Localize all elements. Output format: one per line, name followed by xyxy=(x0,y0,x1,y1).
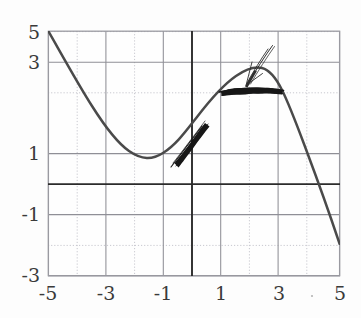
chart-figure: 5 3 1 -1 -3 -5 -3 -1 1 3 5 xyxy=(0,0,361,318)
x-tick-label: -5 xyxy=(39,282,58,304)
y-tick-label: 1 xyxy=(28,142,40,164)
y-axis-tick-labels: 5 3 1 -1 -3 xyxy=(21,21,40,286)
x-tick-label: -3 xyxy=(97,282,116,304)
scan-speck xyxy=(311,295,313,297)
y-tick-label: 5 xyxy=(28,21,40,43)
cropped-title-fragment xyxy=(0,0,361,6)
plot-svg: 5 3 1 -1 -3 -5 -3 -1 1 3 5 xyxy=(0,0,361,318)
x-tick-label: 5 xyxy=(334,282,346,304)
y-tick-label: 3 xyxy=(28,51,40,73)
x-tick-label: 1 xyxy=(215,282,227,304)
x-tick-label: 3 xyxy=(273,282,285,304)
y-tick-label: -3 xyxy=(21,264,40,286)
y-tick-label: -1 xyxy=(21,203,40,225)
x-axis-tick-labels: -5 -3 -1 1 3 5 xyxy=(39,282,346,304)
x-tick-label: -1 xyxy=(154,282,173,304)
